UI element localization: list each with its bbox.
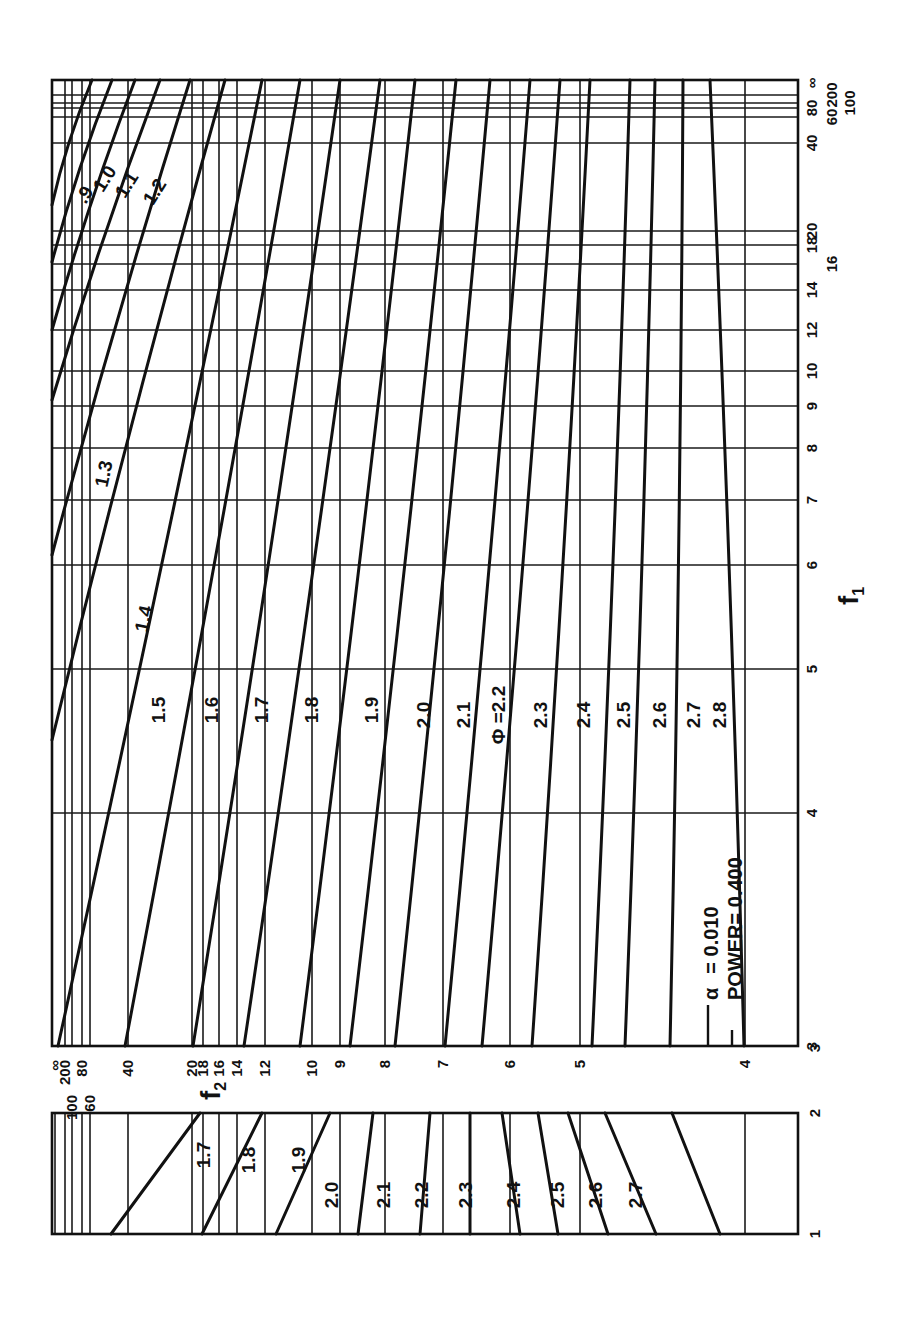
f2-tick: 9: [331, 1060, 348, 1068]
inset-curve-label: 1.8: [238, 1147, 259, 1173]
svg-text:α= 0.010: α= 0.010: [700, 906, 722, 1000]
phi-curve-label: 1.5: [148, 696, 169, 723]
phi-curve-label: 2.1: [453, 701, 474, 728]
phi-curve: [482, 80, 560, 1046]
svg-text:2.0: 2.0: [321, 1182, 342, 1208]
svg-text:16: 16: [823, 256, 840, 273]
phi-curve-label: 1.2: [139, 175, 171, 209]
svg-text:9: 9: [803, 402, 820, 410]
phi-curve: [58, 80, 262, 1046]
phi-curve-label: 1.7: [251, 697, 272, 723]
f1-tick-labels: 3456789101214161820406080100200∞: [803, 77, 858, 1050]
svg-text:1.5: 1.5: [148, 696, 169, 723]
svg-text:1.6: 1.6: [201, 697, 222, 723]
f1-tick: 40: [803, 135, 820, 152]
svg-text:2.4: 2.4: [503, 1181, 524, 1208]
phi-curve: [532, 80, 590, 1046]
phi-curve-label: 2.0: [413, 702, 434, 728]
f2-tick: 3: [806, 1044, 823, 1052]
phi-curve: [300, 80, 415, 1046]
inset-phi-curve: [605, 1113, 656, 1234]
phi-curve-label: 2.5: [613, 701, 634, 728]
phi-curve-label: 2.6: [649, 702, 670, 728]
alpha-annotation: α= 0.010: [700, 906, 722, 1000]
f1-tick: 6: [803, 561, 820, 569]
phi-curve-label: 1.4: [131, 603, 157, 634]
f2-tick: 14: [228, 1059, 245, 1076]
f2-tick: 5: [571, 1060, 588, 1068]
svg-text:2.5: 2.5: [547, 1181, 568, 1208]
f1-tick: 7: [803, 496, 820, 504]
inset-gridlines: [55, 1113, 745, 1234]
f2-tick: 12: [256, 1060, 273, 1077]
svg-text:2.1: 2.1: [453, 701, 474, 728]
svg-text:Φ =2.2: Φ =2.2: [488, 686, 509, 744]
phi-curve: [670, 80, 683, 1046]
phi-curve: [125, 80, 300, 1046]
f1-tick: 10: [803, 363, 820, 380]
inset-curve-label: 1.9: [288, 1147, 309, 1173]
inset-phi-curve: [420, 1113, 430, 1234]
phi-curve-label: 2.4: [573, 701, 594, 728]
phi-curve: [445, 80, 530, 1046]
f1-tick: ∞: [803, 77, 820, 88]
f1-tick: 9: [803, 402, 820, 410]
inset-phi-curve: [358, 1113, 373, 1234]
inset-curve-labels: 1.71.81.92.02.12.22.32.42.52.62.712: [193, 1109, 823, 1238]
svg-text:∞: ∞: [803, 77, 820, 88]
svg-text:2.4: 2.4: [573, 701, 594, 728]
svg-text:4: 4: [803, 808, 820, 817]
inset-curve-label: 2.0: [321, 1182, 342, 1208]
svg-text:2: 2: [806, 1109, 823, 1117]
svg-text:10: 10: [803, 363, 820, 380]
svg-text:2.1: 2.1: [373, 1181, 394, 1208]
phi-curve: [350, 80, 456, 1046]
f2-tick: 80: [73, 1060, 90, 1077]
f2-tick: 18: [194, 1060, 211, 1077]
svg-text:2.7: 2.7: [683, 702, 704, 728]
inset-f1-tick: 2: [806, 1109, 823, 1117]
phi-curve-label: 2.3: [530, 702, 551, 728]
f2-tick: 60: [81, 1095, 98, 1112]
phi-curve-label: Φ =2.2: [488, 686, 509, 744]
svg-text:16: 16: [210, 1060, 227, 1077]
svg-text:2.6: 2.6: [649, 702, 670, 728]
f2-tick: 4: [736, 1059, 753, 1068]
f2-tick: 16: [210, 1060, 227, 1077]
phi-curve: [52, 80, 160, 400]
svg-text:2.7: 2.7: [625, 1182, 646, 1208]
phi-curve-label: 2.8: [709, 702, 730, 728]
main-plot-frame: [52, 80, 798, 1046]
svg-text:6: 6: [501, 1060, 518, 1068]
svg-text:8: 8: [376, 1060, 393, 1068]
svg-text:14: 14: [803, 281, 820, 298]
svg-text:2.0: 2.0: [413, 702, 434, 728]
f1-tick: 8: [803, 444, 820, 452]
f1-tick: 60: [823, 109, 840, 126]
svg-text:7: 7: [434, 1060, 451, 1068]
inset-phi-curve: [672, 1113, 720, 1234]
inset-curve-label: 2.7: [625, 1182, 646, 1208]
svg-text:2.3: 2.3: [455, 1182, 476, 1208]
svg-text:40: 40: [803, 135, 820, 152]
svg-text:200: 200: [823, 82, 840, 107]
f1-tick: 20: [803, 223, 820, 240]
f2-tick-labels: ∞2001008060402018161412109876543: [46, 1044, 823, 1120]
svg-text:2.5: 2.5: [613, 701, 634, 728]
power-chart: 3456789101214161820406080100200∞ ∞200100…: [0, 0, 923, 1332]
phi-curve: [592, 80, 630, 1046]
inset-curve-label: 2.5: [547, 1181, 568, 1208]
svg-text:40: 40: [119, 1060, 136, 1077]
f1-axis-title: f1: [833, 587, 867, 605]
f1-tick: 100: [841, 90, 858, 115]
svg-text:9: 9: [331, 1060, 348, 1068]
phi-curve: [625, 80, 655, 1046]
svg-text:1.9: 1.9: [361, 697, 382, 723]
phi-curve-label: 1.8: [301, 697, 322, 723]
svg-text:10: 10: [303, 1060, 320, 1077]
svg-text:1.2: 1.2: [139, 175, 171, 209]
svg-text:2.2: 2.2: [411, 1182, 432, 1208]
f1-tick: 12: [803, 322, 820, 339]
svg-text:1.8: 1.8: [238, 1147, 259, 1173]
f2-tick: 8: [376, 1060, 393, 1068]
